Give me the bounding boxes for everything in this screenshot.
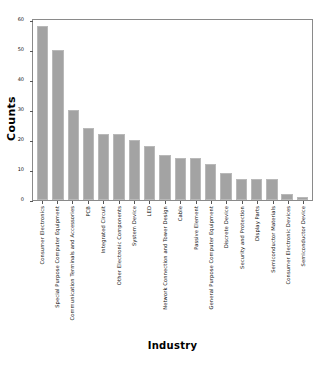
bar[interactable] <box>220 173 231 200</box>
bar-slot <box>35 20 50 200</box>
bar[interactable] <box>68 110 79 200</box>
bar[interactable] <box>205 164 216 200</box>
x-tick: Passive Element <box>188 201 203 337</box>
bar-slot <box>188 20 203 200</box>
y-tick-label: 0 <box>21 197 24 202</box>
x-tick-mark <box>273 201 274 204</box>
x-tick-label: System Device <box>131 206 137 246</box>
x-tick: PCB <box>80 201 95 337</box>
x-tick: Consumer Electronics <box>34 201 49 337</box>
bar-series <box>33 20 312 200</box>
x-tick-mark <box>180 201 181 204</box>
x-tick-label: Other Electronic Components <box>116 206 122 285</box>
bar[interactable] <box>37 26 48 200</box>
y-tick-mark <box>30 51 33 52</box>
y-tick-label: 60 <box>18 17 24 22</box>
x-tick: Security and Protection <box>234 201 249 337</box>
y-axis-title-text: Counts <box>5 96 18 141</box>
x-tick-label: Display Parts <box>254 206 260 241</box>
x-tick-label: Special Purpose Computer Equipment <box>54 206 60 308</box>
x-tick-label: PCB <box>85 206 91 217</box>
bar[interactable] <box>129 140 140 200</box>
bar[interactable] <box>281 194 292 200</box>
y-tick-mark <box>30 111 33 112</box>
x-tick-mark <box>211 201 212 204</box>
x-tick-label: Cable <box>177 206 183 221</box>
x-tick: Communication Terminals and Accessories <box>65 201 80 337</box>
x-tick-mark <box>226 201 227 204</box>
bar-slot <box>127 20 142 200</box>
y-tick-label: 30 <box>18 107 24 112</box>
x-tick-label: LED <box>146 206 152 216</box>
x-tick-mark <box>196 201 197 204</box>
y-tick-label: 20 <box>18 137 24 142</box>
y-tick-label: 40 <box>18 77 24 82</box>
bar[interactable] <box>144 146 155 200</box>
bar-slot <box>50 20 65 200</box>
y-tick-label: 50 <box>18 47 24 52</box>
plot-area <box>32 19 313 201</box>
bar-slot <box>157 20 172 200</box>
bar[interactable] <box>83 128 94 200</box>
bar-slot <box>81 20 96 200</box>
x-tick: LED <box>142 201 157 337</box>
x-tick: System Device <box>126 201 141 337</box>
x-tick-label: Passive Element <box>193 206 199 250</box>
y-tick-mark <box>30 81 33 82</box>
x-tick: Display Parts <box>249 201 264 337</box>
bar-slot <box>295 20 310 200</box>
x-tick: Special Purpose Computer Equipment <box>49 201 64 337</box>
x-tick-mark <box>119 201 120 204</box>
bar-slot <box>111 20 126 200</box>
bar[interactable] <box>251 179 262 200</box>
x-tick-label: Integrated Circuit <box>100 206 106 253</box>
x-tick-mark <box>103 201 104 204</box>
y-tick-label: 10 <box>18 167 24 172</box>
x-tick-label: Security and Protection <box>239 206 245 269</box>
x-tick-mark <box>242 201 243 204</box>
x-tick-label: Network Connection and Tower Design <box>162 206 168 310</box>
bar[interactable] <box>98 134 109 200</box>
x-tick-label: Semiconductor Materials <box>270 206 276 273</box>
x-axis-ticks: Consumer ElectronicsSpecial Purpose Comp… <box>32 201 313 337</box>
bar-slot <box>249 20 264 200</box>
bar-chart-figure: Counts 0102030405060 Consumer Electronic… <box>0 0 327 370</box>
bar[interactable] <box>113 134 124 200</box>
x-tick: Integrated Circuit <box>96 201 111 337</box>
x-tick: Cable <box>173 201 188 337</box>
x-tick-mark <box>288 201 289 204</box>
y-tick-mark <box>30 171 33 172</box>
bar[interactable] <box>190 158 201 200</box>
x-tick-label: Discrete Device <box>223 206 229 248</box>
x-tick-mark <box>303 201 304 204</box>
y-tick-mark <box>30 141 33 142</box>
x-tick: Semiconductor Materials <box>265 201 280 337</box>
x-tick-mark <box>42 201 43 204</box>
y-tick-mark <box>30 21 33 22</box>
bar[interactable] <box>297 197 308 200</box>
bar-slot <box>234 20 249 200</box>
x-tick: Network Connection and Tower Design <box>157 201 172 337</box>
bar[interactable] <box>52 50 63 200</box>
x-tick-label: Consumer Electronics <box>39 206 45 264</box>
x-tick-mark <box>257 201 258 204</box>
bar[interactable] <box>236 179 247 200</box>
bar-slot <box>218 20 233 200</box>
x-tick: Discrete Device <box>219 201 234 337</box>
x-tick-label: Communication Terminals and Accessories <box>69 206 75 321</box>
x-tick-mark <box>165 201 166 204</box>
x-tick: General Purpose Computer Equipment <box>203 201 218 337</box>
bar-slot <box>264 20 279 200</box>
x-tick-label: Consumer Electronic Devices <box>285 206 291 284</box>
x-tick-mark <box>88 201 89 204</box>
x-tick-mark <box>149 201 150 204</box>
bar[interactable] <box>159 155 170 200</box>
x-tick-mark <box>134 201 135 204</box>
bar[interactable] <box>175 158 186 200</box>
bar[interactable] <box>266 179 277 200</box>
bar-slot <box>96 20 111 200</box>
x-tick-mark <box>57 201 58 204</box>
bar-slot <box>203 20 218 200</box>
x-tick-label: General Purpose Computer Equipment <box>208 206 214 310</box>
bar-slot <box>142 20 157 200</box>
